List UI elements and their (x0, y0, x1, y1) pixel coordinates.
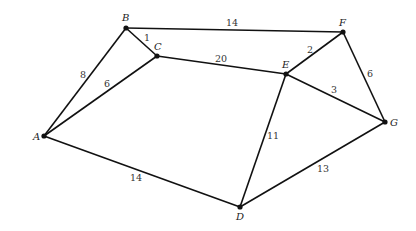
edge-e-d (240, 74, 286, 207)
node-f (340, 29, 345, 34)
edge-weight-e-d: 11 (267, 130, 279, 141)
edge-e-g (286, 74, 385, 122)
node-a (41, 133, 46, 138)
graph-diagram: 8611420236111413 ABCDEFG (0, 0, 416, 231)
edge-a-c (44, 56, 157, 136)
edge-a-b (44, 28, 126, 136)
edge-weight-b-c: 1 (144, 32, 150, 43)
edge-weight-a-c: 6 (104, 78, 110, 89)
node-g (382, 119, 387, 124)
node-labels: ABCDEFG (32, 12, 398, 222)
edge-weight-e-g: 3 (331, 84, 337, 95)
node-label-e: E (281, 59, 290, 70)
edge-weight-d-g: 13 (317, 163, 329, 174)
node-d (237, 204, 242, 209)
node-label-f: F (338, 17, 347, 28)
node-label-b: B (121, 12, 129, 23)
node-e (283, 71, 288, 76)
edge-b-f (126, 28, 343, 32)
node-label-a: A (32, 131, 40, 142)
node-label-c: C (154, 41, 162, 52)
node-label-g: G (390, 117, 398, 128)
node-label-d: D (235, 211, 244, 222)
edge-b-c (126, 28, 157, 56)
edge-weight-e-f: 2 (307, 44, 313, 55)
node-b (123, 25, 128, 30)
edge-weight-c-e: 20 (215, 53, 227, 64)
edge-weight-a-d: 14 (130, 172, 142, 183)
edge-weight-b-f: 14 (226, 17, 238, 28)
edge-weight-f-g: 6 (367, 68, 373, 79)
node-c (154, 53, 159, 58)
edge-f-g (343, 32, 385, 122)
edge-weight-a-b: 8 (80, 69, 86, 80)
edge-e-f (286, 32, 343, 74)
edge-d-g (240, 122, 385, 207)
